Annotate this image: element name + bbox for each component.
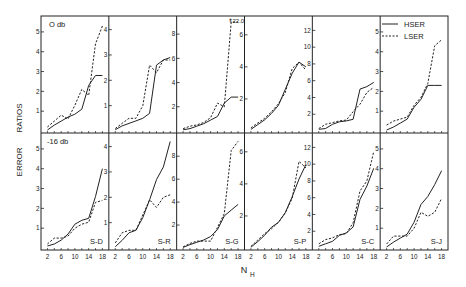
x-tick-label: 6 bbox=[127, 253, 131, 260]
hser-curve bbox=[115, 58, 170, 130]
lser-curve bbox=[319, 87, 374, 128]
lser-curve bbox=[387, 40, 442, 125]
y-tick-label: 12 bbox=[304, 27, 312, 34]
y-tick-label: 1 bbox=[375, 107, 379, 114]
x-tick-label: 6 bbox=[59, 253, 63, 260]
x-tick-label: 14 bbox=[221, 253, 229, 260]
x-tick-label: 10 bbox=[139, 253, 147, 260]
y-tick-label: 2 bbox=[307, 227, 311, 234]
y-axis-label-error: ERROR bbox=[15, 147, 24, 176]
y-tick-label: 4 bbox=[239, 63, 243, 70]
y-tick-label: 4 bbox=[172, 198, 176, 205]
x-tick-label: 10 bbox=[275, 253, 283, 260]
lser-curve bbox=[183, 22, 238, 129]
x-tick-label: 10 bbox=[71, 253, 79, 260]
annotation-22: ↟22.0 bbox=[228, 18, 245, 24]
y-tick-label: 2 bbox=[172, 221, 176, 228]
x-tick-label: 18 bbox=[438, 253, 446, 260]
x-tick-label: 14 bbox=[289, 253, 297, 260]
panel-label: S-J bbox=[431, 237, 443, 246]
x-axis-label-subscript: H bbox=[250, 271, 255, 278]
y-tick-label: 10 bbox=[304, 43, 312, 50]
y-tick-label: 1 bbox=[104, 102, 108, 109]
x-tick-label: 6 bbox=[399, 253, 403, 260]
y-tick-label: 6 bbox=[239, 148, 243, 155]
y-tick-label: 1 bbox=[104, 219, 108, 226]
y-tick-label: 2 bbox=[36, 88, 40, 95]
x-tick-label: 2 bbox=[181, 253, 185, 260]
y-tick-label: 4 bbox=[104, 26, 108, 33]
y-tick-label: 2 bbox=[104, 194, 108, 201]
row-label-0db: O db bbox=[49, 20, 65, 29]
x-tick-label: 2 bbox=[317, 253, 321, 260]
y-tick-label: 2 bbox=[239, 212, 243, 219]
x-tick-label: 18 bbox=[235, 253, 243, 260]
y-tick-label: 2 bbox=[36, 205, 40, 212]
y-tick-label: 2 bbox=[104, 77, 108, 84]
y-tick-label: 3 bbox=[104, 51, 108, 58]
y-tick-label: 2 bbox=[307, 110, 311, 117]
lser-curve bbox=[183, 141, 238, 247]
x-tick-label: 18 bbox=[99, 253, 107, 260]
x-tick-label: 10 bbox=[411, 253, 419, 260]
lser-curve bbox=[251, 161, 306, 246]
x-tick-label: 2 bbox=[249, 253, 253, 260]
y-tick-label: 5 bbox=[375, 28, 379, 35]
row-label-minus16db: -16 db bbox=[47, 137, 68, 146]
x-tick-label: 2 bbox=[46, 253, 50, 260]
y-tick-label: 4 bbox=[239, 180, 243, 187]
x-tick-label: 6 bbox=[263, 253, 267, 260]
x-tick-label: 6 bbox=[195, 253, 199, 260]
x-tick-label: 14 bbox=[85, 253, 93, 260]
panel-label: S-D bbox=[90, 237, 104, 246]
y-tick-label: 4 bbox=[375, 165, 379, 172]
hser-curve bbox=[115, 142, 170, 247]
y-tick-label: 5 bbox=[36, 28, 40, 35]
y-tick-label: 3 bbox=[36, 185, 40, 192]
y-tick-label: 2 bbox=[172, 103, 176, 110]
y-tick-label: 4 bbox=[307, 94, 311, 101]
y-tick-label: 4 bbox=[172, 79, 176, 86]
y-tick-label: 2 bbox=[239, 95, 243, 102]
legend-lser-label: LSER bbox=[404, 32, 424, 41]
lser-curve bbox=[47, 26, 102, 127]
hser-curve bbox=[319, 82, 374, 129]
y-tick-label: 4 bbox=[36, 48, 40, 55]
panel-label: S-P bbox=[294, 237, 307, 246]
y-tick-label: 3 bbox=[375, 185, 379, 192]
x-axis-label: N bbox=[241, 265, 248, 275]
y-tick-label: 6 bbox=[239, 31, 243, 38]
y-tick-label: 2 bbox=[375, 205, 379, 212]
y-tick-label: 8 bbox=[307, 60, 311, 67]
y-tick-label: 8 bbox=[172, 152, 176, 159]
x-tick-label: 14 bbox=[153, 253, 161, 260]
y-tick-label: 6 bbox=[307, 77, 311, 84]
y-tick-label: 4 bbox=[375, 48, 379, 55]
y-tick-label: 3 bbox=[104, 168, 108, 175]
hser-curve bbox=[47, 76, 102, 131]
lser-curve bbox=[115, 195, 170, 243]
hser-curve bbox=[319, 168, 374, 246]
y-tick-label: 4 bbox=[36, 165, 40, 172]
y-tick-label: 2 bbox=[375, 88, 379, 95]
y-tick-label: 1 bbox=[36, 107, 40, 114]
y-tick-label: 4 bbox=[307, 211, 311, 218]
x-tick-label: 18 bbox=[302, 253, 310, 260]
hser-curve bbox=[251, 62, 306, 129]
x-tick-label: 2 bbox=[114, 253, 118, 260]
y-tick-label: 3 bbox=[36, 68, 40, 75]
panel-label: S-C bbox=[361, 237, 375, 246]
y-tick-label: 12 bbox=[304, 144, 312, 151]
y-tick-label: 5 bbox=[375, 145, 379, 152]
x-tick-label: 2 bbox=[385, 253, 389, 260]
hser-curve bbox=[387, 171, 442, 247]
y-tick-label: 5 bbox=[36, 145, 40, 152]
x-tick-label: 14 bbox=[424, 253, 432, 260]
y-tick-label: 3 bbox=[375, 68, 379, 75]
x-tick-label: 18 bbox=[167, 253, 175, 260]
y-tick-label: 6 bbox=[172, 55, 176, 62]
x-tick-label: 18 bbox=[370, 253, 378, 260]
y-tick-label: 4 bbox=[104, 143, 108, 150]
hser-curve bbox=[47, 169, 102, 246]
y-tick-label: 6 bbox=[172, 175, 176, 182]
